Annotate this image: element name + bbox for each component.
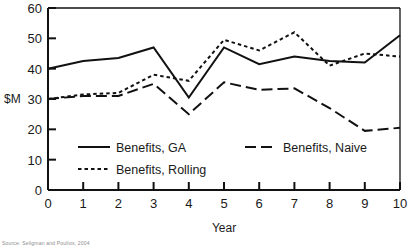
y-axis-title: $M xyxy=(4,92,21,106)
x-tick-label: 1 xyxy=(80,196,87,211)
x-axis-ticks xyxy=(48,182,400,190)
x-tick-label: 5 xyxy=(220,196,227,211)
y-tick-label: 40 xyxy=(28,62,42,77)
x-tick-label: 4 xyxy=(185,196,192,211)
legend-label-2: Benefits, Naive xyxy=(283,141,367,155)
source-caption: Source: Seligman and Poulios, 2004 xyxy=(2,240,90,246)
x-tick-label: 7 xyxy=(291,196,298,211)
y-tick-label: 0 xyxy=(35,183,42,198)
y-tick-label: 60 xyxy=(28,1,42,16)
y-tick-label: 30 xyxy=(28,92,42,107)
legend-label-1: Benefits, GA xyxy=(116,141,187,155)
y-tick-label: 50 xyxy=(28,31,42,46)
x-tick-label: 6 xyxy=(256,196,263,211)
x-tick-label: 9 xyxy=(361,196,368,211)
x-axis-title: Year xyxy=(212,221,236,235)
y-axis-tick-labels: 0102030405060 xyxy=(28,1,42,198)
x-tick-label: 8 xyxy=(326,196,333,211)
y-tick-label: 10 xyxy=(28,153,42,168)
x-axis-tick-labels: 012345678910 xyxy=(44,196,407,211)
series-line-benefits-rolling xyxy=(48,32,400,99)
series-line-benefits-ga xyxy=(48,35,400,97)
x-tick-label: 2 xyxy=(115,196,122,211)
data-series-layer xyxy=(48,32,400,131)
x-tick-label: 3 xyxy=(150,196,157,211)
x-tick-label: 10 xyxy=(393,196,407,211)
chart-legend: Benefits, GABenefits, NaiveBenefits, Rol… xyxy=(78,141,367,177)
legend-label-3: Benefits, Rolling xyxy=(116,163,206,177)
axes xyxy=(48,8,400,190)
series-line-benefits-naive xyxy=(48,82,400,131)
x-tick-label: 0 xyxy=(44,196,51,211)
y-tick-label: 20 xyxy=(28,122,42,137)
